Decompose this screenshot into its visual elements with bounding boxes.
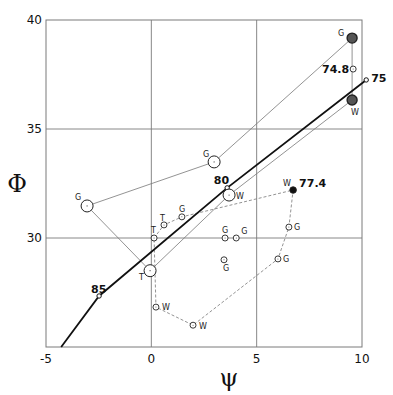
small-point-label: G xyxy=(241,227,247,236)
large-point-center xyxy=(214,161,215,162)
large-point-label: T xyxy=(138,273,144,282)
x-tick-label: 5 xyxy=(253,352,261,366)
small-point-label: T xyxy=(150,226,156,235)
curve-marker-label: 75 xyxy=(371,72,386,85)
small-point-label: W xyxy=(162,303,170,312)
large-point-label: G xyxy=(203,150,209,159)
small-point-center xyxy=(277,258,278,259)
small-point-label: G xyxy=(283,255,289,264)
small-point-center xyxy=(224,259,225,260)
small-point-center xyxy=(225,238,226,239)
y-tick-label: 30 xyxy=(27,231,42,245)
curve-marker-label: 80 xyxy=(214,174,230,187)
phi-psi-chart: -50510403530 ψ Φ 758085 GTGWGWTTGW77.4GG… xyxy=(0,0,393,395)
small-point-label: T xyxy=(159,214,165,223)
small-point-label: W xyxy=(283,179,291,188)
small-point-label: G xyxy=(222,226,228,235)
x-tick-label: 0 xyxy=(148,352,156,366)
small-point-center xyxy=(353,69,354,70)
point-annotation: 77.4 xyxy=(299,177,326,190)
y-axis-label: Φ xyxy=(7,170,27,198)
large-point-center xyxy=(228,194,229,195)
large-point-label: W xyxy=(351,108,359,117)
large-point-label: G xyxy=(338,29,344,38)
small-point-label: G xyxy=(294,223,300,232)
thick-curve: 758085 xyxy=(61,72,386,347)
thin-lines xyxy=(87,38,352,271)
x-axis-label: ψ xyxy=(220,364,239,392)
curve-marker-label: 85 xyxy=(91,283,106,296)
small-point-center xyxy=(163,224,164,225)
small-point-center xyxy=(193,325,194,326)
small-point-label: W xyxy=(199,322,207,331)
small-point-label: G xyxy=(223,264,229,273)
large-point-label: W xyxy=(236,192,244,201)
small-point-center xyxy=(154,238,155,239)
x-tick-label: -5 xyxy=(40,352,52,366)
thick-curve-line xyxy=(61,80,366,347)
small-point-center xyxy=(288,227,289,228)
small-point-label: G xyxy=(179,205,185,214)
large-point-label: G xyxy=(75,193,81,202)
thin-connector xyxy=(87,162,214,206)
small-point-center xyxy=(155,307,156,308)
large-point-center xyxy=(86,205,87,206)
point-annotation: 74.8 xyxy=(322,63,349,76)
thin-connector xyxy=(150,195,229,271)
y-tick-label: 35 xyxy=(27,122,42,136)
large-point xyxy=(347,33,357,43)
x-tick-label: 10 xyxy=(354,352,369,366)
large-point-center xyxy=(149,270,150,271)
small-point-center xyxy=(236,238,237,239)
y-tick-label: 40 xyxy=(27,13,42,27)
large-point xyxy=(347,95,357,105)
curve-marker xyxy=(364,78,368,82)
small-point-center xyxy=(181,216,182,217)
